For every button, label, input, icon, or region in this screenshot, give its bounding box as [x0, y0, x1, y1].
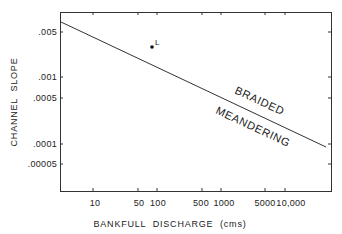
x-tick-label: 500	[193, 198, 209, 208]
braided-label: BRAIDED	[233, 84, 286, 117]
x-tick-label: 10,000	[276, 198, 305, 208]
x-axis-title: BANKFULL DISCHARGE (cms)	[94, 219, 247, 229]
x-tick-label: 1000	[213, 198, 234, 208]
x-tick-labels: 10 50 100 500 1000 5000 10,000	[90, 198, 306, 208]
data-point-l	[150, 45, 154, 49]
x-tick-label: 50	[134, 198, 145, 208]
threshold-line	[61, 22, 326, 147]
x-tick-label: 10	[90, 198, 101, 208]
y-tick-label: .0001	[33, 139, 57, 149]
plot-frame	[61, 13, 332, 192]
y-axis-title: CHANNEL SLOPE	[9, 58, 19, 147]
y-tick-labels: .005 .001 .0005 .0001 .00005	[28, 27, 57, 169]
y-tick-label: .00005	[28, 159, 57, 169]
chart: .005 .001 .0005 .0001 .00005 10 50 100 5…	[0, 0, 342, 234]
x-tick-label: 100	[150, 198, 166, 208]
y-tick-label: .005	[38, 27, 57, 37]
y-tick-label: .001	[38, 72, 57, 82]
y-ticks	[60, 32, 331, 164]
y-tick-label: .0005	[33, 93, 57, 103]
point-label: L	[155, 38, 160, 47]
x-tick-label: 5000	[254, 198, 275, 208]
